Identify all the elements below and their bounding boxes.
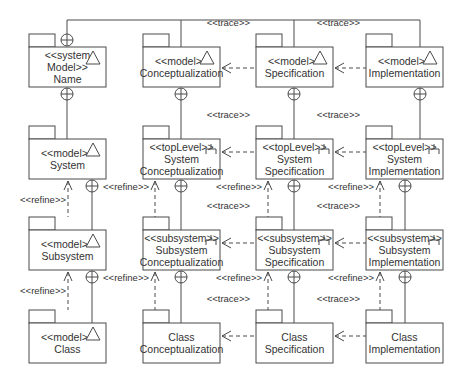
package-tab [256, 126, 282, 139]
package-tab [366, 217, 392, 230]
package-tab [256, 34, 282, 47]
refine-label: <<refine>> [216, 181, 262, 192]
uml-package-diagram: <<systemModel>>Name<<model>>Conceptualiz… [0, 0, 468, 384]
package-name: Class [391, 331, 417, 343]
package-name: Class [281, 331, 307, 343]
containment-icon [288, 271, 300, 283]
package-tab [29, 310, 55, 323]
trace-label: <<trace>> [207, 200, 251, 211]
package-name: Implementation [369, 343, 441, 355]
package-stereotype: <<model>> [41, 147, 94, 159]
containment-icon [61, 34, 73, 46]
package-name: Subsystem [156, 244, 208, 256]
trace-label: <<trace>> [317, 200, 361, 211]
package-name: Specification [265, 165, 325, 177]
trace-label: <<trace>> [207, 17, 251, 28]
package-name: Conceptualization [140, 343, 224, 355]
package-tab [143, 310, 169, 323]
package-stereotype: <<topLevel>> [372, 141, 436, 153]
package-name: Class [54, 343, 80, 355]
package-name: Name [53, 73, 81, 85]
package-conceptualization[interactable]: <<model>>Conceptualization [140, 34, 224, 87]
trace-label: <<trace>> [207, 293, 251, 304]
package-name: Implementation [369, 67, 441, 79]
package-tab [366, 34, 392, 47]
packages-layer: <<systemModel>>Name<<model>>Conceptualiz… [29, 34, 443, 363]
package-tab [256, 217, 282, 230]
package-name: Implementation [369, 165, 441, 177]
containment-icon [288, 180, 300, 192]
containment-icon [86, 271, 98, 283]
package-stereotype: <<subsystem>> [144, 232, 219, 244]
containment-icon [399, 271, 411, 283]
refine-label: <<refine>> [20, 285, 66, 296]
containment-icon [175, 271, 187, 283]
package-name: System [164, 153, 199, 165]
refine-label: <<refine>> [328, 272, 374, 283]
package-name: Subsystem [269, 244, 321, 256]
containment-icon [86, 180, 98, 192]
package-tab [143, 217, 169, 230]
package-class-conceptualization[interactable]: ClassConceptualization [140, 310, 224, 363]
package-tab [143, 126, 169, 139]
trace-label: <<trace>> [317, 109, 361, 120]
package-name: Implementation [369, 256, 441, 268]
containment-icon [288, 88, 300, 100]
package-stereotype: <<topLevel>> [262, 141, 326, 153]
package-tab [29, 126, 55, 139]
package-name: Conceptualization [140, 165, 224, 177]
package-stereotype: <<subsystem>> [257, 232, 332, 244]
refine-label: <<refine>> [103, 181, 149, 192]
package-stereotype: <<model>> [378, 55, 431, 67]
refine-label: <<refine>> [20, 194, 66, 205]
containment-icon [414, 88, 426, 100]
trace-label: <<trace>> [207, 109, 251, 120]
containment-icon [399, 180, 411, 192]
trace-label: <<trace>> [317, 17, 361, 28]
package-tab [29, 34, 55, 47]
containment-icon [175, 180, 187, 192]
package-system-implementation[interactable]: <<topLevel>>SystemImplementation [366, 126, 443, 179]
refine-label: <<refine>> [103, 272, 149, 283]
package-tab [366, 126, 392, 139]
refine-label: <<refine>> [328, 181, 374, 192]
package-subsystem[interactable]: <<model>>Subsystem [29, 217, 106, 270]
package-stereotype: <<model>> [41, 238, 94, 250]
package-name: System [387, 153, 422, 165]
package-name: System [277, 153, 312, 165]
package-name: Specification [265, 67, 325, 79]
package-name: Subsystem [42, 250, 94, 262]
package-system-conceptualization[interactable]: <<topLevel>>SystemConceptualization [140, 126, 224, 179]
package-class[interactable]: <<model>>Class [29, 310, 106, 363]
package-name: Conceptualization [140, 256, 224, 268]
refine-label: <<refine>> [216, 272, 262, 283]
package-name: System [50, 159, 85, 171]
package-tab [143, 34, 169, 47]
package-tab [256, 310, 282, 323]
package-name: Conceptualization [140, 67, 224, 79]
package-stereotype: <<subsystem>> [367, 232, 442, 244]
package-name: Subsystem [379, 244, 431, 256]
package-stereotype: <<topLevel>> [149, 141, 213, 153]
package-name: Class [168, 331, 194, 343]
containment-icon [61, 88, 73, 100]
package-stereotype: <<model>> [268, 55, 321, 67]
package-name: Specification [265, 256, 325, 268]
package-tab [29, 217, 55, 230]
package-implementation[interactable]: <<model>>Implementation [366, 34, 443, 87]
package-stereotype: <<system [45, 49, 91, 61]
trace-label: <<trace>> [317, 293, 361, 304]
package-subsystem-conceptualization[interactable]: <<subsystem>>SubsystemConceptualization [140, 217, 224, 270]
package-stereotype: <<model>> [41, 331, 94, 343]
package-name: Model>> [47, 61, 88, 73]
containment-icon [175, 88, 187, 100]
package-name: Specification [265, 343, 325, 355]
package-stereotype: <<model>> [155, 55, 208, 67]
package-tab [366, 310, 392, 323]
